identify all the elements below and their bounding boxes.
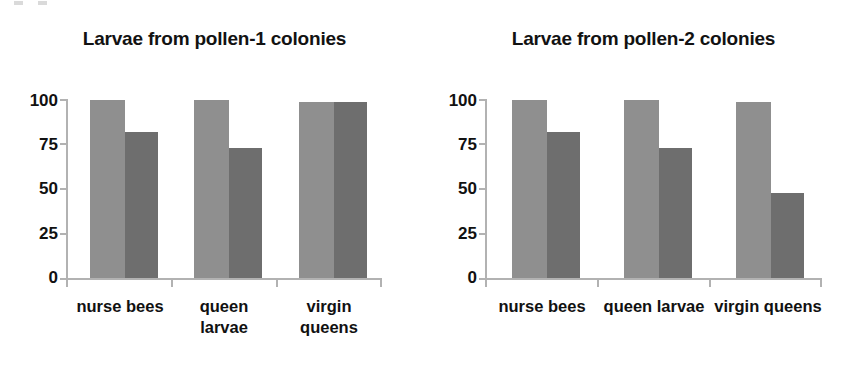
x-tick-label-nurse-bees-line1: nurse bees <box>64 296 176 317</box>
x-tick-label-queen-larvae: queen larvae <box>169 296 279 338</box>
charts-row: Larvae from pollen-1 colonies 100 75 50 … <box>0 0 858 368</box>
x-tick-label-virgin-queens: virgin queens <box>709 296 827 317</box>
x-tick-label-queen-larvae-line2: larvae <box>169 317 279 338</box>
x-tick-label-nurse-bees-line1: nurse bees <box>486 296 598 317</box>
x-tick-label-nurse-bees: nurse bees <box>64 296 176 317</box>
x-tick-label-virgin-queens: virgin queens <box>274 296 384 338</box>
x-tick-label-nurse-bees: nurse bees <box>486 296 598 317</box>
x-tick-label-virgin-queens-line1: virgin queens <box>709 296 827 317</box>
plot-area-pollen-1: 100 75 50 25 0 <box>0 0 429 368</box>
chart-panel-pollen-2: Larvae from pollen-2 colonies 100 75 50 … <box>429 0 858 368</box>
x-tick-label-queen-larvae: queen larvae <box>596 296 712 317</box>
chart-panel-pollen-1: Larvae from pollen-1 colonies 100 75 50 … <box>0 0 429 368</box>
x-tick-label-virgin-queens-line2: queens <box>274 317 384 338</box>
x-axis-labels-pollen-1: nurse bees queen larvae virgin queens <box>0 0 429 368</box>
x-tick-label-queen-larvae-line1: queen <box>169 296 279 317</box>
x-tick-label-queen-larvae-line1: queen larvae <box>596 296 712 317</box>
plot-area-pollen-2: 100 75 50 25 0 <box>429 0 858 368</box>
x-tick-label-virgin-queens-line1: virgin <box>274 296 384 317</box>
x-axis-labels-pollen-2: nurse bees queen larvae virgin queens <box>429 0 858 368</box>
